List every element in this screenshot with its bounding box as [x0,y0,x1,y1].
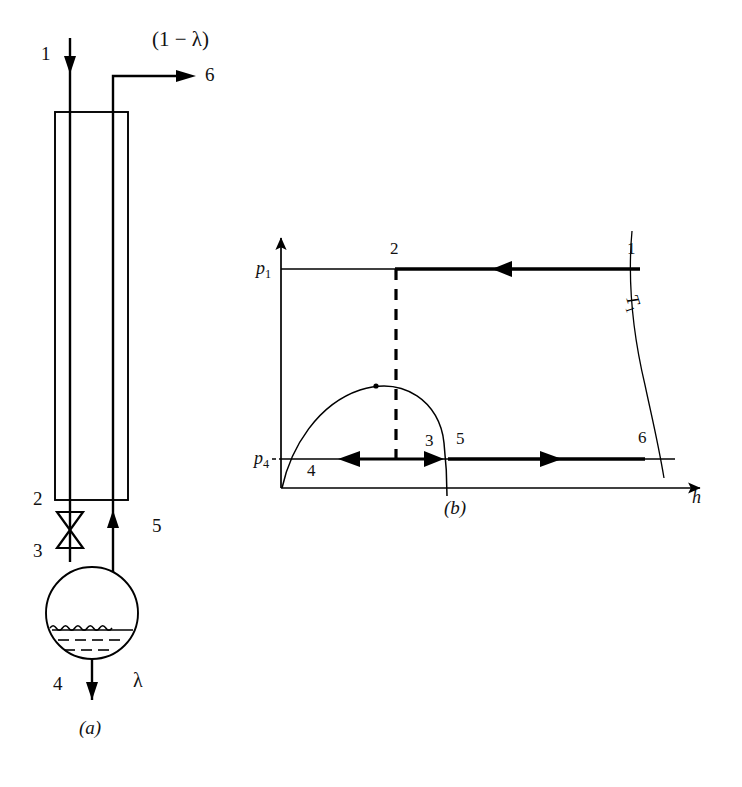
state-point-2-label: 2 [390,240,399,257]
process-1-to-2 [395,261,640,277]
state-point-4-label: 4 [307,462,316,479]
isobar-p4-symbol: p [254,448,263,468]
process-5-to-6 [448,451,645,467]
ph-axes [281,238,700,488]
state-point-3-label: 3 [425,432,434,449]
isobar-p1-symbol: p [256,258,265,278]
isobar-p4-label: p4 [254,449,269,470]
process-3-to-4-arrowhead [338,451,360,467]
state-point-6-label: 6 [638,429,647,446]
process-3-to-5-arrowhead [424,451,444,467]
isobar-p4-subscript: 4 [263,457,269,471]
panel-b-caption: (b) [444,498,466,517]
figure-root: 1 (1 − λ) 6 2 3 5 4 λ (a) [0,0,742,787]
process-3-to-4 [338,451,396,467]
process-1-to-2-arrowhead [492,261,512,277]
process-3-to-5 [396,451,444,467]
critical-point-marker [373,383,378,388]
ph-diagram-panel [0,0,742,787]
state-point-5-label: 5 [456,430,465,447]
isobar-p1-label: p1 [256,259,271,280]
isobar-p1-subscript: 1 [265,267,271,281]
x-axis-label-h: h [692,488,701,506]
state-point-1-label: 1 [627,240,636,257]
process-5-to-6-arrowhead [540,451,562,467]
